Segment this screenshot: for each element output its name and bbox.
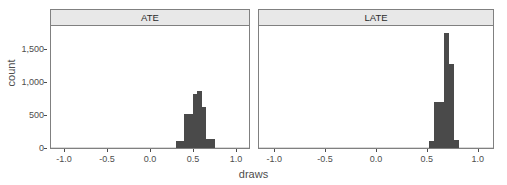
x-tick-mark — [274, 149, 275, 152]
x-tick-label: -0.5 — [317, 154, 333, 164]
y-tick-mark — [44, 82, 47, 83]
facet-panel-late: LATE — [258, 9, 494, 149]
x-tick-label: 0.5 — [187, 154, 200, 164]
x-tick-mark — [64, 149, 65, 152]
y-tick-label: 500 — [10, 110, 44, 120]
x-tick-mark — [376, 149, 377, 152]
x-tick-mark — [193, 149, 194, 152]
x-tick-label: -1.0 — [266, 154, 282, 164]
y-tick-label: 0 — [10, 143, 44, 153]
histogram-bar — [454, 140, 459, 148]
x-tick-mark — [150, 149, 151, 152]
x-tick-label: 0.0 — [370, 154, 383, 164]
x-tick-label: 0.0 — [144, 154, 157, 164]
x-tick-label: 1.0 — [230, 154, 243, 164]
facet-strip-late: LATE — [259, 10, 493, 26]
y-axis: 05001,0001,500 — [2, 0, 44, 185]
x-axis-label: draws — [0, 168, 507, 180]
x-tick-mark — [427, 149, 428, 152]
facet-strip-label: ATE — [141, 12, 159, 23]
y-tick-mark — [44, 148, 47, 149]
histogram-bar — [210, 139, 214, 148]
plot-area-ate — [51, 26, 249, 148]
plot-area-late — [259, 26, 493, 148]
x-tick-label: -1.0 — [56, 154, 72, 164]
y-tick-mark — [44, 49, 47, 50]
facet-panel-ate: ATE — [50, 9, 250, 149]
y-tick-label: 1,500 — [10, 44, 44, 54]
x-tick-label: 0.5 — [421, 154, 434, 164]
x-tick-mark — [325, 149, 326, 152]
histogram-figure: count 05001,0001,500 ATE LATE draws -1.0… — [0, 0, 507, 185]
x-tick-mark — [236, 149, 237, 152]
x-tick-mark — [107, 149, 108, 152]
y-tick-mark — [44, 115, 47, 116]
x-tick-label: -0.5 — [99, 154, 115, 164]
histogram-bar — [449, 64, 454, 148]
y-tick-label: 1,000 — [10, 77, 44, 87]
facet-strip-ate: ATE — [51, 10, 249, 26]
x-tick-label: 1.0 — [471, 154, 484, 164]
x-tick-mark — [478, 149, 479, 152]
baseline — [51, 147, 249, 148]
facet-strip-label: LATE — [364, 12, 387, 23]
